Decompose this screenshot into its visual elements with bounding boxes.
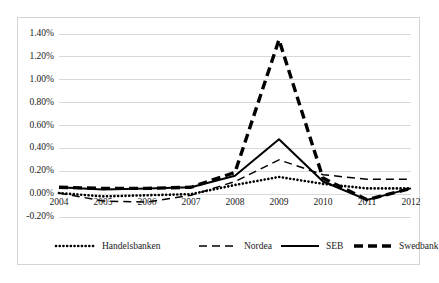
x-axis-tick-label: 2007 xyxy=(169,198,213,208)
chart-figure: 1.40%1.20%1.00%0.80%0.60%0.40%0.20%0.00%… xyxy=(17,17,420,265)
y-axis-tick-label: 0.80% xyxy=(29,98,54,108)
series-line-handelsbanken xyxy=(59,177,411,196)
x-axis-tick-label: 2008 xyxy=(213,198,257,208)
x-axis-tick-label: 2012 xyxy=(389,198,433,208)
x-axis-tick-label: 2004 xyxy=(37,198,81,208)
legend-label-nordea: Nordea xyxy=(244,242,272,252)
legend-label-handelsbanken: Handelsbanken xyxy=(102,242,161,252)
y-axis-tick-label: 0.60% xyxy=(29,121,54,131)
legend-label-seb: SEB xyxy=(326,242,343,252)
y-axis-tick-label: -0.20% xyxy=(26,212,54,222)
x-axis-tick-label: 2009 xyxy=(257,198,301,208)
y-axis-tick-label: 1.00% xyxy=(29,75,54,85)
y-axis-tick-label: 0.40% xyxy=(29,143,54,153)
line-chart-canvas xyxy=(18,18,421,266)
x-axis-tick-label: 2010 xyxy=(301,198,345,208)
y-axis-tick-label: 1.20% xyxy=(29,52,54,62)
y-axis-tick-label: 0.20% xyxy=(29,166,54,176)
x-axis-tick-label: 2005 xyxy=(81,198,125,208)
x-axis-tick-label: 2006 xyxy=(125,198,169,208)
plot-area: 1.40%1.20%1.00%0.80%0.60%0.40%0.20%0.00%… xyxy=(18,18,421,266)
legend-swatches xyxy=(18,238,421,268)
y-axis-tick-label: 1.40% xyxy=(29,29,54,39)
legend-label-swedbank: Swedbank xyxy=(399,242,439,252)
x-axis-tick-label: 2011 xyxy=(345,198,389,208)
